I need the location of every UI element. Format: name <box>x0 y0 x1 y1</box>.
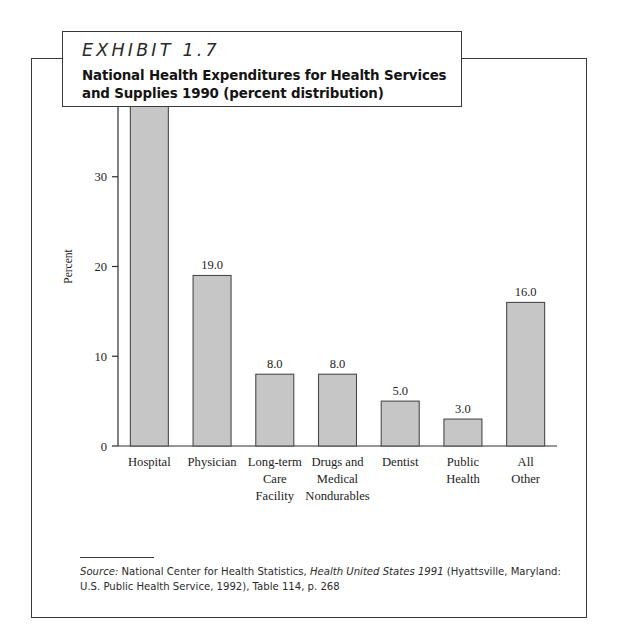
y-axis-title: Percent <box>62 248 74 283</box>
category-label-3: Nondurables <box>305 489 369 503</box>
y-tick-label-10: 10 <box>95 350 108 364</box>
bar-value-label-2: 8.0 <box>267 357 283 371</box>
source-publication: Health United States 1991 <box>310 566 444 577</box>
bar-4[interactable] <box>381 401 419 446</box>
exhibit-frame: 010203040 38.019.08.08.05.03.016.0 Hospi… <box>31 58 587 618</box>
bar-series <box>130 105 544 446</box>
exhibit-title-box: EXHIBIT 1.7 National Health Expenditures… <box>62 31 462 107</box>
category-label-0: Hospital <box>128 455 171 469</box>
category-label-6: All <box>518 455 535 469</box>
source-text: Source: National Center for Health Stati… <box>80 565 572 594</box>
source-note: Source: National Center for Health Stati… <box>80 557 572 595</box>
category-label-3: Drugs and <box>311 455 364 469</box>
bar-value-label-1: 19.0 <box>201 258 223 272</box>
exhibit-number: EXHIBIT 1.7 <box>82 41 461 60</box>
category-label-2: Facility <box>256 489 295 503</box>
bar-3[interactable] <box>319 374 357 446</box>
bar-value-label-6: 16.0 <box>515 285 537 299</box>
category-label-2: Care <box>263 472 287 486</box>
category-label-2: Long-term <box>248 455 302 469</box>
bar-value-label-3: 8.0 <box>330 357 346 371</box>
bar-chart: 010203040 38.019.08.08.05.03.016.0 Hospi… <box>32 59 588 619</box>
category-label-6: Other <box>511 472 540 486</box>
y-tick-label-20: 20 <box>95 260 108 274</box>
category-label-5: Health <box>446 472 480 486</box>
bar-value-label-4: 5.0 <box>392 384 408 398</box>
y-tick-label-0: 0 <box>101 440 107 454</box>
bar-0[interactable] <box>130 105 168 446</box>
bar-5[interactable] <box>444 419 482 446</box>
source-text-part1: National Center for Health Statistics, <box>118 566 310 577</box>
bar-2[interactable] <box>256 374 294 446</box>
y-tick-label-30: 30 <box>95 170 108 184</box>
source-label: Source: <box>80 566 118 577</box>
page-title: National Health Expenditures for Health … <box>82 67 454 103</box>
bar-6[interactable] <box>507 302 545 446</box>
category-label-3: Medical <box>317 472 359 486</box>
source-divider <box>80 557 154 558</box>
category-label-1: Physician <box>188 455 238 469</box>
category-label-4: Dentist <box>382 455 419 469</box>
y-axis-ticks: 010203040 <box>95 81 119 454</box>
bar-1[interactable] <box>193 275 231 446</box>
bar-value-label-5: 3.0 <box>455 402 471 416</box>
x-axis-category-labels: HospitalPhysicianLong-termCareFacilityDr… <box>128 455 541 503</box>
chart-plot-area: 010203040 38.019.08.08.05.03.016.0 Hospi… <box>32 59 588 619</box>
category-label-5: Public <box>447 455 480 469</box>
